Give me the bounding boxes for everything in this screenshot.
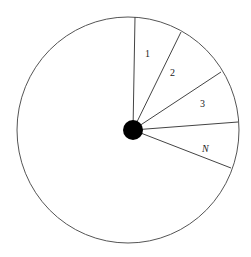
sector-label-2: 2 [170, 67, 175, 78]
hub [123, 120, 143, 140]
sector-label-n: N [201, 143, 210, 154]
spoke-5 [133, 130, 231, 168]
sector-label-3: 3 [200, 98, 205, 109]
spoke-3 [133, 72, 221, 130]
spoke-1 [133, 17, 135, 130]
spoke-2 [133, 32, 181, 130]
spokes [133, 17, 238, 168]
spoke-4 [133, 122, 238, 130]
sector-label-1: 1 [145, 48, 150, 59]
wheel-diagram: 1 2 3 N [0, 0, 251, 257]
